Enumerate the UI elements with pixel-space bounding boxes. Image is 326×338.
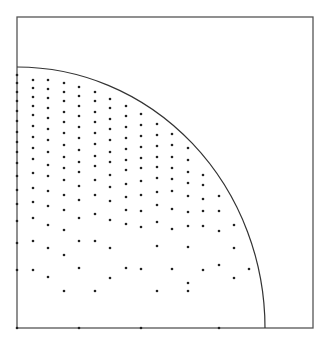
- grid-point: [156, 166, 159, 169]
- grid-point: [78, 105, 81, 108]
- grid-point: [94, 143, 97, 146]
- grid-point: [94, 155, 97, 158]
- grid-point: [171, 208, 174, 211]
- grid-point: [202, 184, 205, 187]
- grid-point: [47, 164, 50, 167]
- grid-point: [140, 113, 143, 116]
- grid-point: [94, 111, 97, 114]
- grid-point: [32, 172, 35, 175]
- grid-point: [156, 177, 159, 180]
- grid-point: [78, 149, 81, 152]
- grid-point: [218, 210, 221, 213]
- grid-point: [78, 267, 81, 270]
- grid-point: [16, 151, 19, 154]
- grid-point: [109, 200, 112, 203]
- grid-point: [94, 121, 97, 124]
- grid-point: [16, 242, 19, 245]
- grid-point: [109, 151, 112, 154]
- grid-point: [78, 115, 81, 118]
- grid-point: [32, 105, 35, 108]
- grid-point: [218, 195, 221, 198]
- grid-point: [47, 224, 50, 227]
- grid-point: [171, 228, 174, 231]
- grid-point: [16, 131, 19, 134]
- grid-point: [218, 264, 221, 267]
- grid-point: [32, 87, 35, 90]
- grid-point: [16, 203, 19, 206]
- grid-point: [63, 167, 66, 170]
- grid-point: [63, 209, 66, 212]
- grid-point: [125, 126, 128, 129]
- grid-point: [47, 128, 50, 131]
- grid-point: [187, 246, 190, 249]
- grid-point: [125, 137, 128, 140]
- grid-point: [202, 210, 205, 213]
- grid-point: [187, 211, 190, 214]
- grid-point: [63, 121, 66, 124]
- grid-point: [32, 201, 35, 204]
- grid-point: [187, 147, 190, 150]
- grid-point: [63, 194, 66, 197]
- grid-point: [94, 100, 97, 103]
- grid-point: [78, 137, 81, 140]
- grid-point: [125, 196, 128, 199]
- grid-point: [47, 88, 50, 91]
- grid-point: [32, 147, 35, 150]
- grid-point: [47, 175, 50, 178]
- grid-point: [94, 240, 97, 243]
- grid-point: [109, 277, 112, 280]
- grid-point: [94, 165, 97, 168]
- grid-point: [94, 179, 97, 182]
- grid-point: [187, 195, 190, 198]
- grid-point: [32, 96, 35, 99]
- grid-point: [47, 190, 50, 193]
- grid-point: [32, 114, 35, 117]
- grid-point: [16, 189, 19, 192]
- grid-point: [16, 141, 19, 144]
- grid-point: [140, 226, 143, 229]
- grid-point: [156, 145, 159, 148]
- grid-point: [171, 156, 174, 159]
- grid-point: [233, 224, 236, 227]
- grid-point: [125, 169, 128, 172]
- grid-point: [63, 82, 66, 85]
- grid-point: [233, 247, 236, 250]
- grid-point: [47, 276, 50, 279]
- grid-point: [171, 190, 174, 193]
- grid-point: [140, 124, 143, 127]
- bounding-frame: [17, 17, 313, 328]
- grid-point: [78, 171, 81, 174]
- grid-point: [78, 240, 81, 243]
- grid-point: [94, 91, 97, 94]
- grid-point: [16, 220, 19, 223]
- grid-point: [63, 290, 66, 293]
- grid-point: [94, 132, 97, 135]
- grid-point: [16, 120, 19, 123]
- grid-point: [156, 204, 159, 207]
- grid-point: [125, 223, 128, 226]
- grid-point: [140, 210, 143, 213]
- grid-point: [109, 139, 112, 142]
- grid-point: [32, 79, 35, 82]
- grid-point: [171, 167, 174, 170]
- grid-point: [125, 115, 128, 118]
- grid-point: [16, 91, 19, 94]
- grid-point: [47, 247, 50, 250]
- grid-point: [32, 125, 35, 128]
- grid-point: [171, 178, 174, 181]
- grid-point: [156, 245, 159, 248]
- grid-point: [109, 174, 112, 177]
- grid-point: [78, 126, 81, 129]
- grid-point: [202, 225, 205, 228]
- grid-point: [47, 117, 50, 120]
- grid-point: [78, 185, 81, 188]
- grid-point: [156, 191, 159, 194]
- grid-point: [140, 157, 143, 160]
- grid-point: [78, 86, 81, 89]
- grid-point: [32, 217, 35, 220]
- grid-point: [63, 156, 66, 159]
- grid-point: [187, 225, 190, 228]
- grid-point: [32, 240, 35, 243]
- grid-point: [94, 194, 97, 197]
- grid-point: [63, 100, 66, 103]
